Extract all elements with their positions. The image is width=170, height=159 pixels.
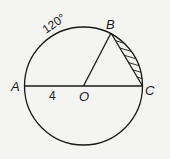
label-a: A	[10, 79, 20, 94]
radius-ob	[84, 33, 112, 86]
label-arc-120: 120°	[40, 11, 69, 37]
label-o: O	[79, 89, 89, 104]
label-length-ao: 4	[49, 89, 56, 103]
label-b: B	[106, 17, 115, 32]
circle-diagram: A B C O 4 120°	[0, 0, 170, 159]
chord-bc	[111, 33, 143, 86]
label-c: C	[145, 83, 155, 98]
